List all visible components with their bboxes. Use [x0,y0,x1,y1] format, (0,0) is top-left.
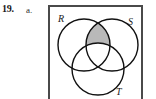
figure-page: 19. a. R [0,0,156,99]
set-label-r: R [57,13,64,24]
exercise-number: 19. [2,3,14,14]
set-label-s: S [128,16,133,27]
venn-diagram-svg: R S T [50,7,141,99]
exercise-part-label: a. [26,5,32,15]
set-label-t: T [116,86,123,97]
venn-diagram-frame: R S T [48,5,143,99]
